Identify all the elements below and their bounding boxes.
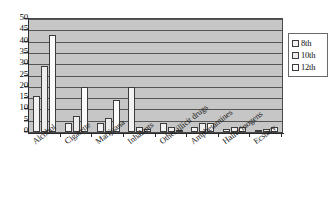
legend-item-label: 8th [301, 39, 311, 48]
x-axis-tick-mark [123, 133, 124, 137]
legend-item-label: 10th [301, 51, 315, 60]
bar [128, 87, 135, 132]
legend-item-label: 12th [301, 63, 315, 72]
bar-group [61, 19, 93, 132]
x-axis-tick-mark [281, 133, 282, 137]
bar-group [92, 19, 124, 132]
bar [49, 35, 56, 132]
x-axis-tick-mark [186, 133, 187, 137]
x-axis-tick-mark [155, 133, 156, 137]
bar [33, 96, 40, 132]
x-axis-tick-mark [249, 133, 250, 137]
x-axis-tick-mark [218, 133, 219, 137]
y-axis: 50454035302520151050 [0, 18, 28, 133]
legend-swatch-icon [292, 64, 299, 71]
legend-swatch-icon [292, 40, 299, 47]
bar-group [156, 19, 188, 132]
x-axis-tick-mark [91, 133, 92, 137]
x-axis-tick-mark [60, 133, 61, 137]
legend-swatch-icon [292, 52, 299, 59]
bar [41, 66, 48, 132]
legend: 8th10th12th [288, 33, 328, 77]
legend-item[interactable]: 12th [292, 61, 324, 73]
bar-chart: 50454035302520151050 AlcoholCigaretteMar… [0, 0, 332, 203]
legend-item[interactable]: 8th [292, 37, 324, 49]
plot-area [28, 18, 283, 133]
bar-group [29, 19, 61, 132]
bar-group [124, 19, 156, 132]
legend-item[interactable]: 10th [292, 49, 324, 61]
y-axis-line [28, 18, 29, 134]
